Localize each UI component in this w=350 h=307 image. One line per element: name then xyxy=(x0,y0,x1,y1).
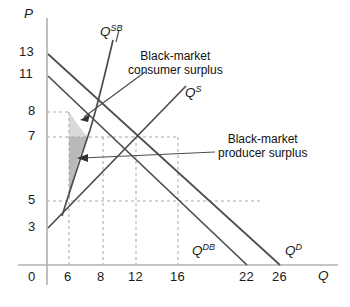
curve-label-qdb: QDB xyxy=(192,243,215,259)
y-tick-13: 13 xyxy=(19,45,34,60)
curve-label-qsb: QSB xyxy=(100,24,123,40)
x-tick-12: 12 xyxy=(128,270,143,285)
x-tick-16: 16 xyxy=(170,270,185,285)
annotation-producer-surplus-line2: producer surplus xyxy=(218,147,307,161)
curve-label-qdb-sup: DB xyxy=(203,242,216,252)
x-tick-6: 6 xyxy=(64,270,71,285)
annotation-consumer-surplus-line1: Black-market xyxy=(128,50,223,64)
x-tick-26: 26 xyxy=(272,270,287,285)
annotation-consumer-surplus-line2: consumer surplus xyxy=(128,64,223,78)
origin-label: 0 xyxy=(28,270,35,285)
curve-label-qs: QS xyxy=(185,85,202,101)
curve-label-qd: QD xyxy=(285,243,302,259)
curve-label-qsb-base: Q xyxy=(100,24,111,39)
y-axis-label: P xyxy=(24,6,33,22)
curve-label-qd-base: Q xyxy=(285,243,296,258)
curve-label-qs-sup: S xyxy=(196,84,202,94)
x-tick-22: 22 xyxy=(239,270,254,285)
curve-label-qs-base: Q xyxy=(185,85,196,100)
leader-line-producer-surplus xyxy=(82,152,215,158)
arrowhead-consumer-surplus xyxy=(80,114,90,122)
black-market-demand-curve-qdb xyxy=(48,76,247,265)
annotation-producer-surplus-line1: Black-market xyxy=(218,133,307,147)
curve-label-qsb-sup: SB xyxy=(111,23,123,33)
economics-supply-demand-figure: P Q 13 11 8 7 5 3 0 6 8 12 16 22 26 QSB … xyxy=(0,0,350,307)
x-tick-8: 8 xyxy=(97,270,104,285)
y-tick-8: 8 xyxy=(28,104,35,119)
y-tick-11: 11 xyxy=(19,67,33,82)
curve-label-qd-sup: D xyxy=(296,242,303,252)
annotation-producer-surplus: Black-market producer surplus xyxy=(218,133,307,161)
y-tick-7: 7 xyxy=(28,129,35,144)
x-axis-label: Q xyxy=(318,268,329,284)
annotation-consumer-surplus: Black-market consumer surplus xyxy=(128,50,223,78)
y-tick-3: 3 xyxy=(28,220,35,235)
y-tick-5: 5 xyxy=(28,193,35,208)
curve-label-qdb-base: Q xyxy=(192,243,203,258)
